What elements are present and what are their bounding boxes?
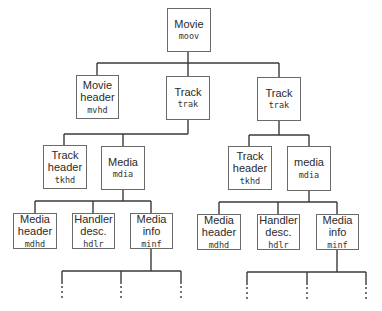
node-code: mvhd (87, 104, 107, 116)
node-moov: Movie moov (167, 8, 211, 52)
node-label: Media (20, 213, 50, 226)
node-hdlr-1: Handler desc. hdlr (72, 213, 115, 249)
node-code: mdia (113, 168, 133, 180)
node-label: Movie (174, 18, 203, 31)
node-label: Movie (83, 79, 112, 92)
node-label: header (80, 91, 114, 104)
node-tkhd-1: Track header tkhd (43, 145, 87, 189)
node-label: Handler (259, 214, 298, 227)
node-mdhd-1: Media header mdhd (13, 213, 57, 249)
node-label: Track (51, 149, 78, 162)
node-minf-2: Media info minf (316, 214, 359, 250)
node-label: Media (137, 213, 167, 226)
node-label: header (233, 162, 267, 175)
node-mdia-1: Media mdia (101, 146, 145, 190)
node-label: header (48, 161, 82, 174)
node-code: mdhd (209, 239, 229, 251)
node-tkhd-2: Track header tkhd (228, 146, 272, 190)
node-code: hdlr (268, 239, 288, 251)
node-code: minf (141, 238, 161, 250)
node-trak-1: Track trak (166, 76, 210, 120)
node-code: mdia (299, 169, 319, 181)
node-code: moov (179, 30, 199, 42)
node-code: minf (327, 239, 347, 251)
node-code: mdhd (25, 238, 45, 250)
node-label: header (202, 226, 236, 239)
node-hdlr-2: Handler desc. hdlr (257, 214, 300, 250)
node-label: header (18, 225, 52, 238)
node-mdia-2: media mdia (287, 146, 331, 191)
node-label: Media (204, 214, 234, 227)
node-label: desc. (80, 225, 106, 238)
node-label: Media (108, 156, 138, 169)
node-code: trak (269, 99, 289, 111)
node-label: Handler (74, 213, 113, 226)
node-code: tkhd (240, 175, 260, 187)
node-code: tkhd (55, 174, 75, 186)
node-label: info (329, 226, 347, 239)
node-code: hdlr (83, 238, 103, 250)
node-label: Track (174, 86, 201, 99)
node-label: Track (265, 87, 292, 100)
node-minf-1: Media info minf (130, 213, 173, 249)
mp4-atom-tree-diagram: Movie moov Movie header mvhd Track trak … (0, 0, 382, 311)
node-mvhd: Movie header mvhd (76, 75, 119, 119)
node-label: info (143, 225, 161, 238)
node-label: Track (236, 150, 263, 163)
node-code: trak (178, 98, 198, 110)
node-label: Media (323, 214, 353, 227)
node-mdhd-2: Media header mdhd (197, 214, 241, 250)
node-label: desc. (265, 226, 291, 239)
node-trak-2: Track trak (257, 77, 301, 121)
node-label: media (294, 156, 324, 169)
